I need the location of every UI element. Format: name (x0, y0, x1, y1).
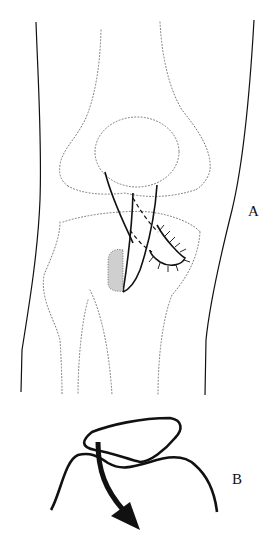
leg-outline (21, 20, 254, 395)
sutured-flap (149, 225, 190, 272)
bone-block (108, 250, 123, 292)
tibia-outline (43, 211, 200, 395)
patella-outline (95, 117, 179, 187)
panel-label-a: A (248, 203, 259, 220)
knee-diagram (0, 0, 275, 550)
femur-outline (60, 22, 211, 196)
panel-b-loop (51, 418, 217, 512)
panel-label-b: B (232, 471, 242, 488)
